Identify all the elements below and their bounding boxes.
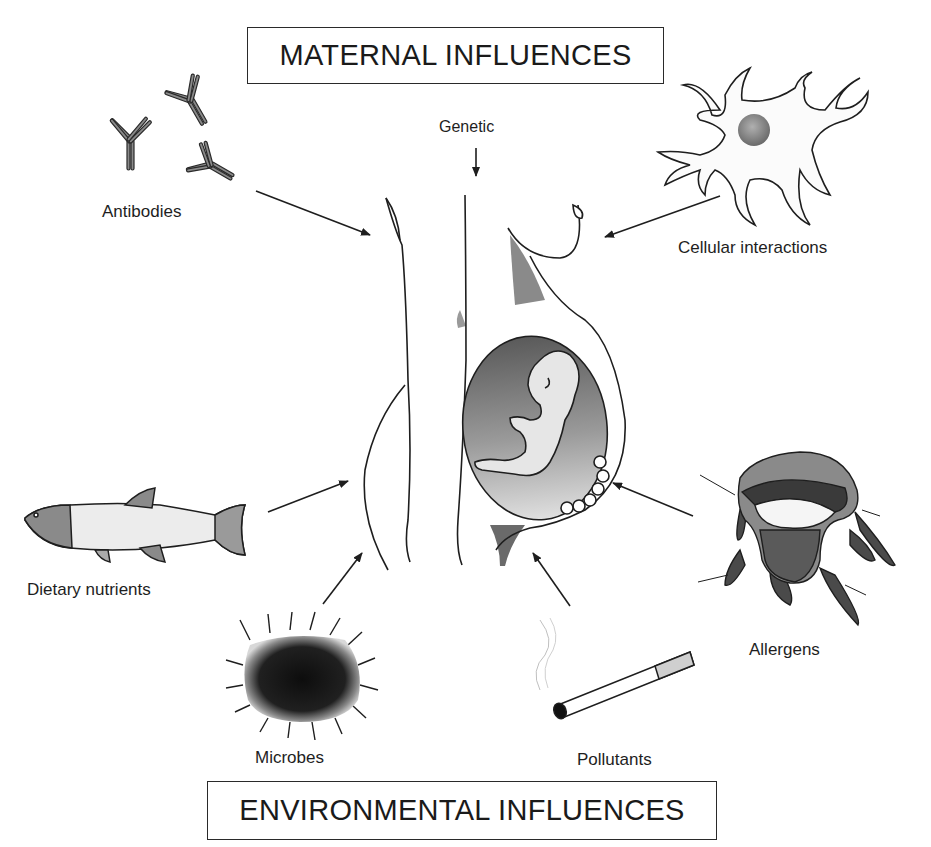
arrow-cellular: [605, 196, 720, 237]
cigarette-icon: [536, 618, 694, 721]
arrow-dietary: [268, 481, 348, 512]
arrow-microbes: [323, 553, 362, 604]
antibodies-icon: [110, 71, 242, 194]
arrow-antibodies: [256, 191, 370, 235]
dietary-nutrients-label: Dietary nutrients: [27, 580, 151, 600]
dust-mite-icon: [698, 452, 895, 625]
pollutants-label: Pollutants: [577, 750, 652, 770]
cell-nucleus: [738, 114, 770, 146]
genetic-label: Genetic: [439, 118, 494, 136]
arrow-allergens: [613, 483, 693, 516]
spiky-microbe-icon: [226, 612, 378, 740]
environmental-influences-title: ENVIRONMENTAL INFLUENCES: [207, 781, 717, 840]
cellular-interactions-label: Cellular interactions: [678, 238, 827, 258]
microbes-label: Microbes: [255, 748, 324, 768]
fish-icon: [25, 488, 245, 562]
antibodies-label: Antibodies: [102, 202, 181, 222]
arrow-pollutants: [533, 553, 570, 606]
maternal-influences-title: MATERNAL INFLUENCES: [247, 27, 664, 84]
dendritic-cell-icon: [658, 68, 868, 225]
pregnant-woman-icon: [364, 195, 625, 570]
allergens-label: Allergens: [749, 640, 820, 660]
